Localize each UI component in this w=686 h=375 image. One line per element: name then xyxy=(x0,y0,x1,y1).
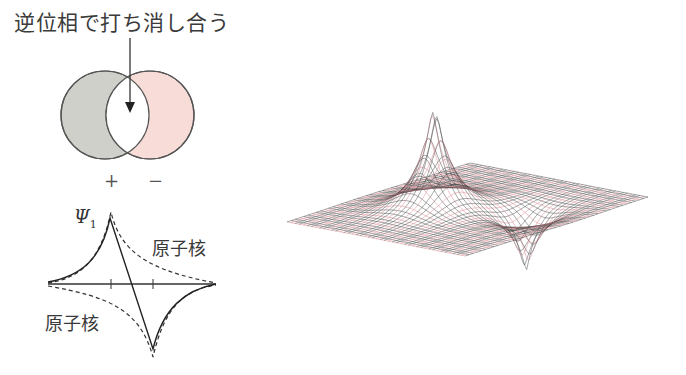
psi-label: Ψ1 xyxy=(74,206,97,231)
nucleus-label-left: 原子核 xyxy=(45,309,99,335)
nucleus-label-right: 原子核 xyxy=(152,234,206,260)
diagram-canvas xyxy=(0,0,686,375)
positive-sign: + xyxy=(104,170,119,191)
orbital-overlap-venn xyxy=(61,38,194,159)
negative-sign: − xyxy=(148,170,163,191)
3d-wireframe-surface xyxy=(287,112,648,269)
